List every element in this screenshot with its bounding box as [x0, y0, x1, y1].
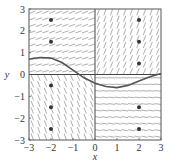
slope-segment [29, 18, 35, 20]
slope-segment [95, 136, 101, 137]
x-tick-label: 1 [115, 142, 120, 153]
slope-segment [69, 57, 75, 59]
slope-segment [62, 11, 68, 13]
slope-segment [121, 110, 128, 111]
slope-segment [110, 35, 112, 41]
slope-segment [137, 68, 140, 74]
slope-segment [77, 81, 80, 87]
slope-segment [82, 44, 88, 46]
slope-segment [110, 55, 113, 61]
slope-segment [38, 88, 41, 94]
slope-segment [97, 55, 100, 61]
slope-segment [150, 16, 152, 22]
slope-segment [89, 18, 95, 20]
slope-segment [104, 9, 106, 15]
slope-segment [104, 49, 107, 55]
slope-segment [62, 37, 68, 39]
slope-segment [97, 9, 99, 15]
slope-segment [150, 9, 152, 15]
slope-segment [89, 37, 95, 39]
slope-segment [154, 123, 161, 124]
slope-segment [38, 108, 40, 114]
slope-segment [75, 18, 81, 20]
slope-segment [56, 57, 62, 59]
slope-segment [84, 127, 86, 133]
slope-segment [64, 101, 66, 107]
slope-segment [71, 108, 73, 114]
slope-segment [122, 130, 128, 131]
slope-segment [51, 114, 53, 120]
marked-point [137, 40, 141, 44]
slope-segment [108, 104, 115, 105]
slope-segment [141, 104, 148, 105]
slope-segment [49, 70, 55, 72]
slope-segment [77, 75, 80, 81]
slope-segment [89, 44, 95, 46]
slope-segment [102, 110, 109, 111]
slope-segment [102, 97, 109, 98]
x-axis-label: x [92, 151, 98, 162]
marked-point [137, 18, 141, 22]
slope-segment [115, 84, 122, 85]
slope-segment [102, 104, 109, 105]
slope-segment [71, 75, 74, 81]
slope-segment [130, 35, 132, 41]
slope-segment [143, 68, 146, 74]
slope-segment [44, 108, 46, 114]
slope-segment [148, 97, 155, 98]
slope-segment [115, 117, 122, 118]
slope-segment [143, 55, 146, 61]
slope-segment [117, 9, 119, 15]
slope-segment [89, 70, 95, 72]
slope-segment [36, 44, 42, 46]
slope-segment [62, 44, 68, 46]
slope-segment [84, 94, 87, 100]
slope-segment [108, 97, 115, 98]
x-tick-label: −3 [24, 142, 35, 153]
slope-segment [143, 49, 146, 55]
slope-segment [121, 97, 128, 98]
marked-point [49, 127, 53, 131]
slope-segment [71, 114, 73, 120]
slope-segment [42, 11, 48, 13]
slope-segment [71, 121, 73, 127]
slope-segment [77, 101, 79, 107]
slope-segment [130, 55, 133, 61]
slope-segment [75, 31, 81, 33]
slope-segment [49, 37, 55, 39]
slope-segment [108, 136, 114, 137]
slope-segment [91, 121, 93, 127]
slope-segment [89, 31, 95, 33]
slope-segment [51, 121, 53, 127]
slope-segment [49, 11, 55, 13]
slope-segment [95, 110, 102, 111]
y-axis-label: y [4, 69, 10, 80]
slope-segment [130, 16, 132, 22]
x-tick-label: 2 [137, 142, 142, 153]
slope-segment [56, 44, 62, 46]
slope-segment [117, 16, 119, 22]
slope-segment [69, 18, 75, 20]
slope-segment [91, 101, 93, 107]
slope-segment [64, 121, 66, 127]
slope-segment [128, 136, 134, 137]
y-tick-label: −1 [14, 91, 25, 102]
slope-segment [121, 104, 128, 105]
slope-segment [121, 117, 128, 118]
slope-segment [90, 75, 93, 81]
slope-segment [42, 18, 48, 20]
slope-segment [157, 35, 159, 41]
slope-segment [157, 9, 159, 15]
slope-segment [115, 97, 122, 98]
slope-segment [29, 70, 35, 72]
slope-segment [57, 75, 60, 81]
slope-segment [38, 127, 40, 133]
slope-segment [77, 127, 79, 133]
slope-segment [62, 31, 68, 33]
slope-segment [42, 44, 48, 46]
slope-segment [137, 55, 140, 61]
slope-segment [89, 24, 95, 26]
y-tick-label: 0 [20, 69, 25, 80]
slope-segment [150, 22, 152, 28]
slope-segment [148, 136, 154, 137]
